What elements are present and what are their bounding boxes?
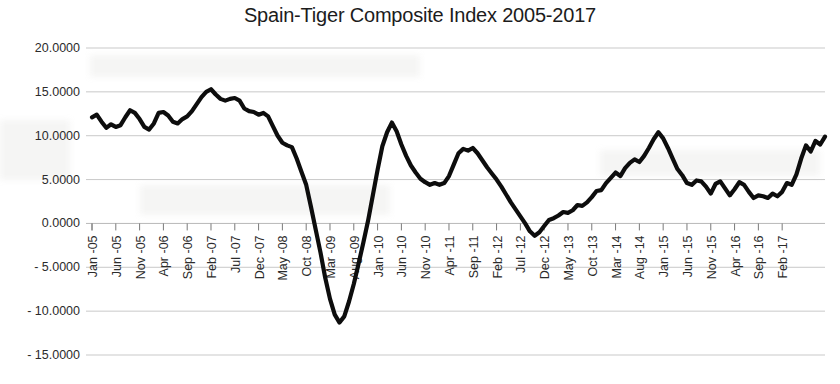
y-axis-tick-label: 0.0000 [42, 216, 80, 230]
line-chart-plot: 20.000015.000010.00005.00000.0000- 5.000… [0, 0, 840, 384]
x-axis-tick-label: Mar -14 [610, 235, 624, 278]
x-axis-tick-label: Jan -05 [86, 235, 100, 277]
chart-container: Spain-Tiger Composite Index 2005-2017 20… [0, 0, 840, 384]
x-axis-tick-label: Oct -13 [586, 235, 600, 276]
y-axis-tick-label: 10.0000 [35, 129, 80, 143]
x-axis-tick-label: Oct -08 [300, 235, 314, 276]
data-series-line [92, 89, 825, 322]
x-axis-tick-label: Sep -11 [467, 235, 481, 278]
x-axis-tick-label: Apr -16 [729, 235, 743, 276]
x-axis-tick-label: Feb -17 [776, 235, 790, 278]
x-axis-tick-label: Apr -11 [443, 235, 457, 275]
x-axis-tick-label: Feb -12 [491, 235, 505, 278]
x-axis-tick-label: Jun -05 [110, 235, 124, 277]
x-axis-tick-label: Jun -10 [395, 235, 409, 277]
y-axis-labels: 20.000015.000010.00005.00000.0000- 5.000… [27, 41, 80, 362]
gridlines [86, 48, 825, 355]
x-axis-tick-label: May -13 [562, 235, 576, 280]
y-axis-tick-label: - 5.0000 [34, 260, 80, 274]
y-axis-tick-label: 20.0000 [35, 41, 80, 55]
x-axis-tick-label: Nov -10 [419, 235, 433, 279]
x-axis-tick-label: Jan -10 [372, 235, 386, 277]
x-axis-tick-label: Sep -16 [752, 235, 766, 279]
y-axis-tick-label: 15.0000 [35, 85, 80, 99]
x-axis-labels: Jan -05Jun -05Nov -05Apr -06Sep -06Feb -… [86, 235, 790, 280]
y-axis-tick-label: - 10.0000 [27, 304, 80, 318]
x-axis-tick-label: Nov -05 [134, 235, 148, 279]
x-axis-tick-label: Dec -07 [253, 235, 267, 279]
x-axis-tick-label: May -08 [276, 235, 290, 280]
x-axis-tick-label: Apr -06 [157, 235, 171, 276]
x-axis-tick-label: Feb -07 [205, 235, 219, 278]
x-axis-tick-label: Jul -07 [229, 235, 243, 273]
x-axis-tick-label: Jan -15 [657, 235, 671, 277]
x-axis-ticks [92, 223, 782, 230]
x-axis-tick-label: Dec -12 [538, 235, 552, 279]
y-axis-tick-label: 5.0000 [42, 173, 80, 187]
x-axis-tick-label: Jul -12 [514, 235, 528, 273]
x-axis-tick-label: Jun -15 [681, 235, 695, 277]
y-axis-tick-label: - 15.0000 [27, 348, 80, 362]
x-axis-tick-label: Sep -06 [181, 235, 195, 279]
x-axis-tick-label: Nov -15 [705, 235, 719, 279]
x-axis-tick-label: Aug -14 [633, 235, 647, 279]
